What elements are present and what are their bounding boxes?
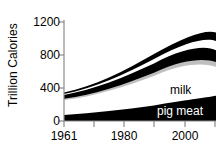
x-tick-label-2000: 2000 bbox=[172, 130, 199, 142]
y-tick-label-400: 400 bbox=[40, 82, 60, 94]
chart-figure: Trillion Calories 1200 800 400 0 bbox=[0, 0, 222, 152]
series-label-milk: milk bbox=[170, 84, 191, 96]
x-tick-label-1961: 1961 bbox=[51, 130, 78, 142]
y-tick-label-1200: 1200 bbox=[33, 16, 60, 28]
series-label-pig-meat: pig meat bbox=[157, 105, 203, 117]
x-tick-label-1980: 1980 bbox=[111, 130, 138, 142]
x-axis-ticks bbox=[64, 121, 215, 127]
y-axis-title: Trillion Calories bbox=[6, 5, 20, 125]
y-axis-ticks bbox=[59, 22, 64, 121]
y-tick-label-800: 800 bbox=[40, 49, 60, 61]
y-tick-label-0: 0 bbox=[53, 115, 60, 127]
